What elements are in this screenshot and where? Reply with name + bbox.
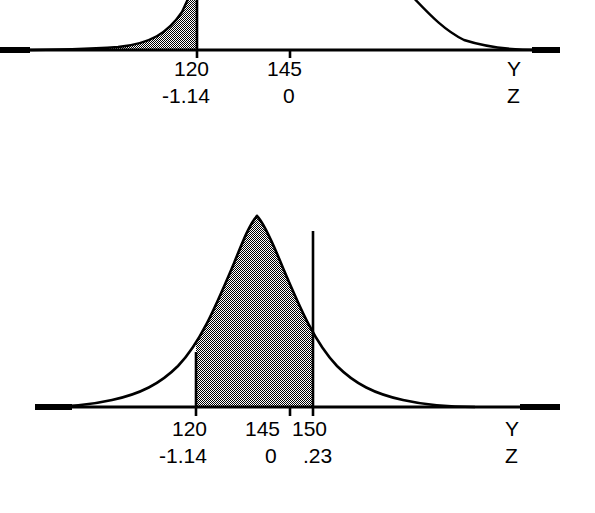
lower-z-tick-label-neg114: -1.14 [159,445,207,466]
upper-curve-plot [0,0,595,58]
lower-y-tick-label-145: 145 [245,418,280,439]
upper-z-tick-label-neg114: -1.14 [162,85,210,106]
lower-z-tick-label-023: .23 [303,445,332,466]
lower-z-tick-label-0: 0 [265,445,277,466]
lower-curve-svg [0,128,595,418]
upper-z-axis-name: Z [507,85,520,106]
upper-z-tick-label-0: 0 [283,85,295,106]
upper-axis-labels: 120 145 -1.14 0 Y Z [0,56,595,112]
lower-y-axis-name: Y [505,418,519,439]
lower-axis-labels: 120 145 150 -1.14 0 .23 Y Z [0,416,595,472]
lower-z-axis-name: Z [505,445,518,466]
upper-curve-svg [0,0,595,58]
upper-y-tick-label-120: 120 [174,58,209,79]
lower-curve-plot [0,128,595,418]
upper-y-axis-name: Y [507,58,521,79]
lower-y-tick-label-120: 120 [172,418,207,439]
upper-normal-curve-figure: 120 145 -1.14 0 Y Z [0,0,595,120]
lower-normal-curve-figure: 120 145 150 -1.14 0 .23 Y Z [0,128,595,488]
lower-y-tick-label-150: 150 [292,418,327,439]
upper-y-tick-label-145: 145 [267,58,302,79]
upper-curve-right-tail [404,0,538,50]
lower-shaded-region [40,216,475,407]
